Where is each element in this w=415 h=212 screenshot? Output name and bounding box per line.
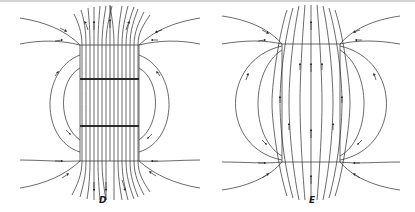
panel-label-e: E: [309, 195, 315, 205]
panel-d: [20, 5, 200, 200]
panel-e: [222, 5, 400, 200]
internal-lines-e: [272, 5, 350, 200]
internal-lines-d: [72, 5, 150, 200]
panel-label-d: D: [99, 195, 106, 205]
field-line-diagram: [0, 0, 415, 212]
